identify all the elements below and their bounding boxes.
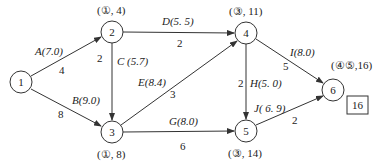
node-6: 6 (322, 79, 344, 101)
edge-1-2-weight: 4 (59, 64, 65, 76)
edge-2-4-weight: 2 (177, 37, 183, 49)
node-2: 2 (101, 21, 123, 43)
edge-2-4 (123, 32, 234, 33)
edge-4-5-activity: H(5. 0) (249, 77, 282, 90)
edge-1-2-activity: A(7.0) (34, 45, 63, 58)
edge-4-6-weight: 5 (283, 60, 289, 72)
edge-3-5-activity: G(8.0) (169, 115, 198, 128)
node-5-annotation: (③, 14) (228, 147, 262, 160)
edge-3-4-weight: 3 (170, 88, 176, 100)
svg-text:1: 1 (18, 76, 24, 88)
edge-3-5 (123, 131, 234, 132)
edge-5-6-activity: J( 6. 9) (254, 102, 286, 115)
edge-5-6-weight: 2 (292, 114, 298, 126)
node-4-annotation: (③, 11) (229, 5, 263, 18)
edge-2-4-activity: D(5. 5) (161, 15, 194, 28)
svg-text:3: 3 (109, 126, 115, 138)
svg-text:16: 16 (352, 99, 364, 111)
edge-4-6-activity: I(8.0) (289, 46, 315, 59)
node-6-annotation: (④⑤,16) (331, 59, 372, 72)
node-3-annotation: (①, 8) (97, 148, 126, 161)
edge-2-3-weight: 2 (97, 52, 103, 64)
svg-text:4: 4 (243, 27, 249, 39)
edge-4-5-weight: 2 (238, 77, 244, 89)
node-2-annotation: (①, 4) (97, 4, 126, 17)
node-1: 1 (10, 71, 32, 93)
network-diagram: 1 2 3 4 5 6 (①, 4) (①, 8) (③, 11) (③, 14… (0, 0, 377, 167)
svg-text:6: 6 (330, 84, 336, 96)
edge-3-5-weight: 6 (180, 140, 186, 152)
svg-text:2: 2 (109, 26, 115, 38)
svg-text:5: 5 (243, 125, 249, 137)
edge-1-3-weight: 8 (58, 108, 64, 120)
edge-2-3-activity: C (5.7) (117, 55, 149, 68)
edge-3-4-activity: E(8.4) (137, 76, 166, 89)
node-3: 3 (101, 121, 123, 143)
edge-1-3-activity: B(9.0) (72, 94, 100, 107)
node-4: 4 (235, 22, 257, 44)
node-5: 5 (235, 120, 257, 142)
result-box: 16 (347, 96, 368, 114)
